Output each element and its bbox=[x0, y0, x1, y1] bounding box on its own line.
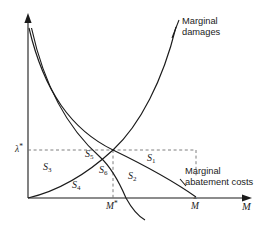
marginal-damages-label: Marginal damages bbox=[182, 16, 220, 38]
m-star-symbol: M bbox=[106, 201, 114, 211]
marginal-abatement-costs-label-line1: Marginal bbox=[185, 166, 253, 177]
dashed-guides-group bbox=[28, 150, 196, 198]
region-s1: S1 bbox=[147, 152, 156, 165]
region-s6-sub: 6 bbox=[104, 169, 108, 177]
m-hat-wrapper: ˆM bbox=[191, 201, 199, 212]
x-axis-label: M bbox=[242, 201, 251, 213]
region-s2: S2 bbox=[128, 170, 137, 183]
region-s2-sub: 2 bbox=[133, 175, 137, 183]
region-s3-sub: 3 bbox=[48, 166, 52, 174]
region-s4: S4 bbox=[72, 179, 81, 192]
region-s4-sub: 4 bbox=[77, 184, 81, 192]
lambda-star-mark: * bbox=[19, 142, 23, 151]
m-hat-mark: ˆ bbox=[194, 196, 197, 206]
region-s6: S6 bbox=[99, 164, 108, 177]
region-s3: S3 bbox=[43, 161, 52, 174]
marginal-abatement-costs-label: Marginal abatement costs bbox=[185, 166, 253, 188]
marginal-abatement-costs-label-line2: abatement costs bbox=[185, 177, 253, 188]
region-s1-sub: 1 bbox=[152, 157, 156, 165]
y-axis-arrow-icon bbox=[24, 13, 31, 23]
marginal-damages-leader-line bbox=[172, 20, 179, 38]
m-star-mark: * bbox=[114, 199, 118, 208]
m-hat-tick-label: ˆM bbox=[191, 201, 199, 212]
region-s5-sub: 5 bbox=[90, 153, 94, 161]
marginal-damages-label-line2: damages bbox=[182, 27, 220, 38]
lambda-star-tick-label: λ* bbox=[15, 143, 23, 155]
region-s5: S5 bbox=[85, 148, 94, 161]
m-star-tick-label: M* bbox=[106, 200, 118, 212]
diagram-canvas bbox=[0, 0, 271, 230]
marginal-damages-label-line1: Marginal bbox=[182, 16, 220, 27]
economics-diagram: Marginal damages Marginal abatement cost… bbox=[0, 0, 271, 230]
